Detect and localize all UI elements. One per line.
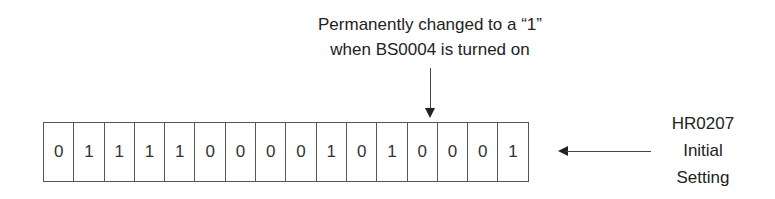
bs0004-annotation: Permanently changed to a “1” when BS0004…: [280, 12, 580, 62]
bit-cell: 0: [256, 123, 286, 181]
bit-cell: 1: [165, 123, 195, 181]
bit-cell: 1: [105, 123, 135, 181]
bit-cell: 1: [377, 123, 407, 181]
down-arrow-shaft: [430, 68, 431, 110]
bit-cell: 0: [44, 123, 74, 181]
annotation-line: when BS0004 is turned on: [280, 37, 580, 62]
label-line: HR0207: [653, 110, 753, 137]
bit-cell: 0: [195, 123, 225, 181]
down-arrow-icon: [425, 108, 435, 118]
bit-cell: 0: [226, 123, 256, 181]
register-hr0207: 0 1 1 1 1 0 0 0 0 1 0 1 0 0 0 1: [43, 122, 529, 182]
bit-cell: 0: [347, 123, 377, 181]
bit-cell-bs0004-target: 0: [408, 123, 438, 181]
bit-cell: 1: [317, 123, 347, 181]
bit-cell: 0: [438, 123, 468, 181]
annotation-line: Permanently changed to a “1”: [280, 12, 580, 37]
bit-cell: 0: [468, 123, 498, 181]
label-line: Initial: [653, 137, 753, 164]
hr0207-label: HR0207 Initial Setting: [653, 110, 753, 191]
label-line: Setting: [653, 164, 753, 191]
bit-cell: 0: [286, 123, 316, 181]
bit-cell: 1: [135, 123, 165, 181]
left-arrow-shaft: [566, 151, 651, 152]
bit-cell: 1: [498, 123, 528, 181]
bit-cell: 1: [74, 123, 104, 181]
